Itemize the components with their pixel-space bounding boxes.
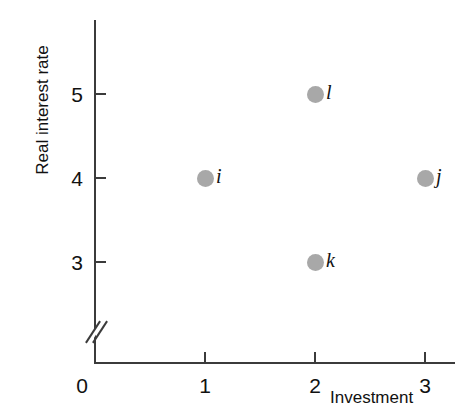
data-point-label-l: l <box>326 82 332 102</box>
x-axis-tick <box>204 352 206 363</box>
origin-tick-label: 0 <box>69 375 95 396</box>
y-axis-tick <box>95 177 106 179</box>
y-axis-line <box>94 20 96 364</box>
y-axis-break-icon <box>84 318 108 348</box>
x-axis-tick-label: 1 <box>192 375 218 396</box>
y-axis-title: Real interest rate <box>33 20 53 200</box>
x-axis-title: Investment <box>330 388 413 408</box>
data-point-k <box>307 254 324 271</box>
data-point-l <box>307 86 324 103</box>
data-point-label-k: k <box>326 250 335 270</box>
y-axis-tick-label: 3 <box>57 252 83 273</box>
data-point-j <box>417 170 434 187</box>
data-point-label-j: j <box>436 166 442 186</box>
x-axis-tick-label: 3 <box>412 375 438 396</box>
x-axis-tick-label: 2 <box>302 375 328 396</box>
data-point-i <box>197 170 214 187</box>
x-axis-tick <box>424 352 426 363</box>
scatter-chart: 123345 ilkj 0 Real interest rate Investm… <box>0 0 464 419</box>
y-axis-tick <box>95 261 106 263</box>
data-point-label-i: i <box>216 166 222 186</box>
x-axis-tick <box>314 352 316 363</box>
x-axis-line <box>94 362 455 364</box>
y-axis-tick-label: 4 <box>57 168 83 189</box>
y-axis-tick <box>95 93 106 95</box>
y-axis-tick-label: 5 <box>57 84 83 105</box>
